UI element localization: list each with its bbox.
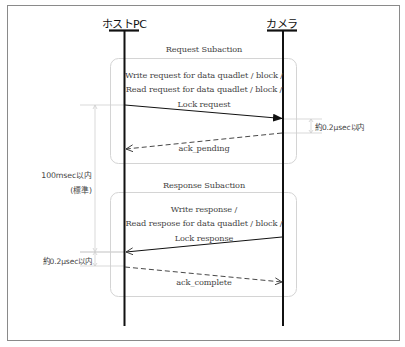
request-ack-timing-label: 約0.2μsec以内: [315, 121, 364, 132]
response-message-line-3: Lock response: [175, 233, 234, 243]
host-actor-label: ホストPC: [102, 15, 147, 31]
request-subaction-title: Request Subaction: [166, 44, 242, 54]
overall-timing-label: 100msec以内: [41, 169, 92, 180]
request-message-line-3: Lock request: [178, 99, 231, 109]
response-ack-timing-label: 約0.2μsec以内: [43, 255, 92, 266]
overall-timing-sublabel: (標準): [70, 184, 92, 195]
ack-pending-label: ack_pending: [178, 143, 229, 153]
request-message-line-2: Read request for data quadlet / block /: [126, 84, 282, 94]
request-message-line-1: Write request for data quadlet / block /: [125, 70, 283, 80]
ack-complete-label: ack_complete: [176, 277, 231, 287]
response-message-line-1: Write response /: [171, 204, 238, 214]
response-subaction-title: Response Subaction: [163, 180, 245, 190]
camera-actor-label: カメラ: [266, 15, 298, 31]
response-message-line-2: Read respose for data quadlet / block /: [125, 218, 282, 228]
